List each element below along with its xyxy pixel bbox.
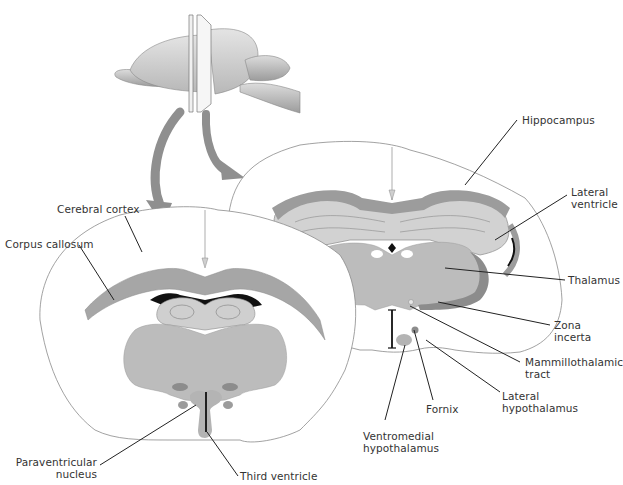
label-thalamus: Thalamus <box>568 274 620 286</box>
label-paraventricular-nucleus: Paraventricularnucleus <box>5 456 97 480</box>
label-third-ventricle: Third ventricle <box>240 470 317 482</box>
label-mammillothalamic-tract: Mammillothalamictract <box>525 356 623 380</box>
label-lateral-hypothalamus: Lateralhypothalamus <box>502 390 578 414</box>
label-lateral-ventricle: Lateralventricle <box>571 186 618 210</box>
label-corpus-callosum: Corpus callosum <box>5 238 94 250</box>
label-cerebral-cortex: Cerebral cortex <box>57 203 140 215</box>
label-fornix: Fornix <box>426 403 459 415</box>
label-hippocampus: Hippocampus <box>522 114 595 126</box>
label-zona-incerta: Zonaincerta <box>554 319 591 343</box>
label-ventromedial-hypothalamus: Ventromedialhypothalamus <box>363 430 439 454</box>
whole-brain-illustration <box>115 15 300 113</box>
